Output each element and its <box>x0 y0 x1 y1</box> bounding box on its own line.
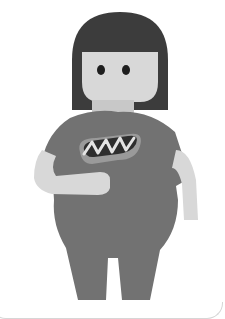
left-eye-icon <box>97 65 105 75</box>
right-eye-icon <box>122 65 130 75</box>
face <box>82 52 158 102</box>
card-border <box>0 302 223 319</box>
